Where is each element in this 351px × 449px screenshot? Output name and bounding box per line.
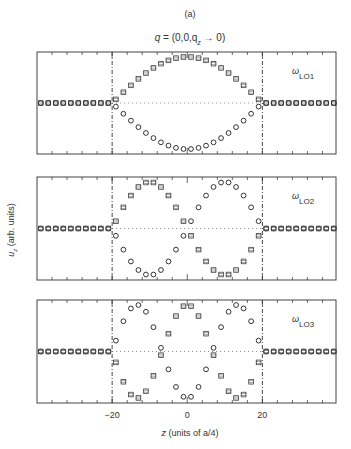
data-point-square <box>218 374 224 379</box>
data-point-square <box>83 349 89 354</box>
data-point-circle <box>181 147 186 152</box>
data-point-circle <box>271 349 276 354</box>
data-point-square <box>158 61 164 66</box>
data-point-circle <box>294 349 299 354</box>
panels: ωLO1ωLO2ωLO3 <box>37 52 337 403</box>
data-point-square <box>248 247 254 252</box>
data-point-square <box>308 226 314 231</box>
data-point-circle <box>256 338 261 343</box>
data-point-square <box>293 226 299 231</box>
data-point-square <box>105 349 111 354</box>
x-tick-label: 20 <box>257 410 267 420</box>
data-point-square <box>211 268 217 273</box>
marker-square <box>114 360 119 365</box>
x-tick-label: 0 <box>185 410 190 420</box>
marker-square <box>189 304 194 309</box>
data-point-square <box>98 349 104 354</box>
marker-square <box>181 304 186 309</box>
data-point-square <box>165 331 171 336</box>
x-tick-label: −20 <box>104 410 119 420</box>
data-point-circle <box>294 101 299 106</box>
data-point-square <box>331 226 337 231</box>
data-point-square <box>150 66 156 71</box>
data-point-circle <box>151 136 156 141</box>
marker-square <box>219 374 224 379</box>
data-point-square <box>248 90 254 95</box>
data-point-circle <box>301 226 306 231</box>
data-point-circle <box>256 104 261 109</box>
marker-square <box>136 396 141 401</box>
data-point-circle <box>234 303 239 308</box>
data-point-square <box>165 58 171 63</box>
data-point-circle <box>91 226 96 231</box>
data-point-circle <box>136 303 141 308</box>
data-point-square <box>196 56 202 61</box>
panel-label: ωLO3 <box>292 314 315 329</box>
data-point-square <box>301 349 307 354</box>
marker-square <box>159 185 164 190</box>
data-point-circle <box>53 226 58 231</box>
series-circles <box>38 101 336 152</box>
data-point-circle <box>76 101 81 106</box>
panel-lo2: ωLO2 <box>37 177 337 280</box>
data-point-circle <box>144 309 149 314</box>
marker-square <box>144 180 149 185</box>
data-point-circle <box>316 226 321 231</box>
data-point-circle <box>226 180 231 185</box>
data-point-square <box>105 226 111 231</box>
data-point-circle <box>264 101 269 106</box>
data-point-circle <box>166 259 171 264</box>
marker-square <box>166 193 171 198</box>
data-point-circle <box>166 367 171 372</box>
data-point-circle <box>331 226 336 231</box>
data-point-square <box>218 272 224 277</box>
data-point-circle <box>331 349 336 354</box>
marker-square <box>144 389 149 394</box>
data-point-circle <box>136 268 141 273</box>
data-point-square <box>196 314 202 319</box>
data-point-square <box>188 233 194 238</box>
data-point-square <box>143 180 149 185</box>
marker-square <box>204 331 209 336</box>
data-point-circle <box>211 140 216 145</box>
data-point-square <box>120 205 126 210</box>
marker-square <box>174 205 179 210</box>
marker-square <box>159 61 164 66</box>
marker-square <box>129 392 134 397</box>
data-point-circle <box>181 233 186 238</box>
figure: (a) q = (0,0,qz → 0) uz (arb. units) z (… <box>0 0 351 449</box>
data-point-circle <box>83 101 88 106</box>
marker-square <box>204 58 209 63</box>
data-point-circle <box>226 309 231 314</box>
data-point-circle <box>113 104 118 109</box>
marker-square <box>241 83 246 88</box>
data-point-square <box>188 304 194 309</box>
marker-square <box>256 360 261 365</box>
data-point-circle <box>38 349 43 354</box>
data-point-square <box>241 392 247 397</box>
marker-square <box>136 77 141 82</box>
data-point-square <box>256 360 262 365</box>
marker-square <box>121 379 126 384</box>
data-point-circle <box>219 136 224 141</box>
panel-lo3: ωLO3 <box>37 300 337 403</box>
data-point-square <box>226 71 232 76</box>
data-point-circle <box>196 385 201 390</box>
marker-square <box>234 77 239 82</box>
data-point-circle <box>106 226 111 231</box>
data-point-square <box>241 259 247 264</box>
data-point-circle <box>204 143 209 148</box>
data-point-circle <box>113 233 118 238</box>
data-point-circle <box>46 101 51 106</box>
data-point-square <box>120 379 126 384</box>
data-point-circle <box>189 147 194 152</box>
data-point-circle <box>316 101 321 106</box>
data-point-circle <box>53 349 58 354</box>
data-point-circle <box>151 325 156 330</box>
data-point-circle <box>271 101 276 106</box>
data-point-square <box>128 83 134 88</box>
marker-square <box>166 58 171 63</box>
data-point-circle <box>136 125 141 130</box>
marker-square <box>234 396 239 401</box>
marker-square <box>144 71 149 76</box>
